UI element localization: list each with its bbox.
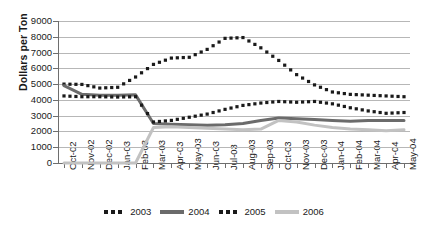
legend-label: 2003	[130, 207, 151, 217]
series-2006	[64, 120, 404, 163]
legend-label: 2005	[245, 207, 266, 217]
data-series-layer	[58, 21, 410, 164]
series-2003	[62, 36, 405, 98]
legend-swatch-solid-light	[275, 210, 299, 214]
chart-legend: 2003200420052006	[0, 205, 428, 219]
chart-container: Dollars per Ton 010002000300040005000600…	[0, 0, 428, 226]
legend-item-2005[interactable]: 2005	[219, 207, 266, 217]
series-2004	[64, 86, 404, 125]
legend-item-2003[interactable]: 2003	[104, 207, 151, 217]
legend-swatch-solid-dark	[160, 210, 184, 214]
legend-label: 2004	[188, 207, 209, 217]
plot-area	[58, 21, 410, 163]
legend-label: 2006	[303, 207, 324, 217]
legend-swatch-dotted	[104, 210, 126, 214]
legend-swatch-dotted	[219, 210, 241, 214]
legend-item-2006[interactable]: 2006	[275, 207, 324, 217]
series-2005	[62, 94, 405, 123]
legend-item-2004[interactable]: 2004	[160, 207, 209, 217]
